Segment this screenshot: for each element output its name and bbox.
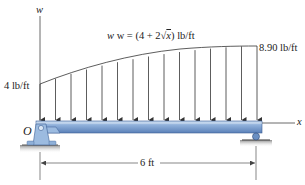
left-ground (20, 145, 60, 153)
load-right-label: 8.90 lb/ft (259, 43, 298, 54)
load-equation-suffix: ) lb/ft (171, 30, 195, 41)
origin-label: O (23, 125, 32, 137)
load-left-label: 4 lb/ft (4, 81, 29, 92)
roller-support (253, 133, 260, 140)
w-axis-label: w (36, 5, 43, 16)
span-label: 6 ft (140, 158, 154, 169)
right-ground (240, 140, 272, 147)
distributed-load-arrows (40, 46, 257, 120)
load-equation: w w = (4 + 2√x) lb/ft (107, 31, 195, 42)
x-axis-label: x (297, 117, 302, 128)
load-equation-prefix: w = (4 + 2 (117, 30, 161, 41)
load-equation-var: w (107, 30, 114, 41)
beam-diagram: w w w = (4 + 2√x) lb/ft 8.90 lb/ft 4 lb/… (0, 0, 305, 185)
